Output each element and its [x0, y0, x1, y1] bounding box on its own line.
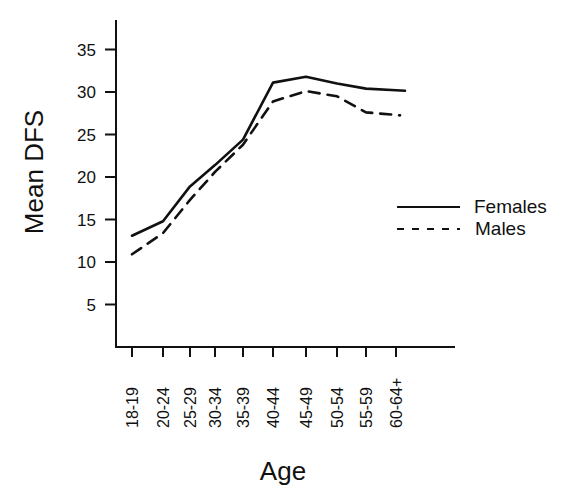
line-chart: 5101520253035 18-1920-2425-2930-3435-394…	[0, 0, 567, 503]
legend-females-label: Females	[474, 196, 547, 217]
y-tick-label: 30	[77, 83, 96, 102]
legend-males-label: Males	[475, 218, 526, 239]
x-tick-label: 25-29	[182, 387, 199, 428]
y-tick-label: 25	[77, 126, 96, 145]
y-tick-label: 15	[77, 211, 96, 230]
x-tick-label: 20-24	[155, 387, 172, 428]
x-tick-label: 50-54	[329, 387, 346, 428]
series-females-line	[132, 77, 405, 236]
x-tick-label: 55-59	[358, 387, 375, 428]
y-tick-label: 35	[77, 41, 96, 60]
x-tick-label: 30-34	[207, 387, 224, 428]
series-males-line	[132, 91, 400, 254]
x-tick-label: 18-19	[124, 387, 141, 428]
legend: Females Males	[397, 196, 547, 239]
y-tick-label: 10	[77, 253, 96, 272]
data-series	[132, 77, 405, 255]
y-axis-ticks: 5101520253035	[77, 41, 116, 315]
x-tick-label: 60-64+	[388, 378, 405, 428]
x-axis-title: Age	[260, 456, 306, 486]
x-tick-label: 35-39	[235, 387, 252, 428]
x-tick-label: 45-49	[298, 387, 315, 428]
y-tick-label: 20	[77, 168, 96, 187]
y-axis-title: Mean DFS	[19, 110, 49, 234]
y-tick-label: 5	[87, 296, 96, 315]
x-tick-label: 40-44	[265, 387, 282, 428]
x-axis-ticks: 18-1920-2425-2930-3435-3940-4445-4950-54…	[124, 347, 405, 428]
